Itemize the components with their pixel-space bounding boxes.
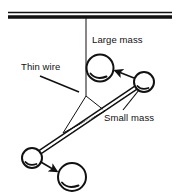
leader-thin-wire <box>40 76 79 92</box>
label-small-mass: Small mass <box>104 113 154 123</box>
attraction-arrow-upper <box>115 71 134 79</box>
label-large-mass: Large mass <box>92 35 143 45</box>
large-mass-upper <box>87 55 114 82</box>
torsion-balance-figure: Large mass Thin wire Small mass <box>0 0 179 196</box>
label-thin-wire: Thin wire <box>21 62 60 72</box>
small-mass-right <box>134 72 154 92</box>
small-mass-left <box>22 148 42 168</box>
figure-canvas <box>0 0 179 196</box>
ceiling-support-bar <box>8 13 172 18</box>
large-mass-lower <box>58 163 86 191</box>
attraction-arrow-lower <box>40 162 57 172</box>
